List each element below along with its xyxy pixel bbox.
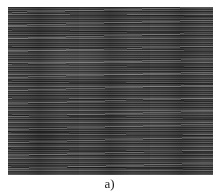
figure-caption: a)	[0, 176, 219, 192]
texture-layer-blotches	[8, 7, 213, 175]
texture-image	[8, 7, 213, 175]
